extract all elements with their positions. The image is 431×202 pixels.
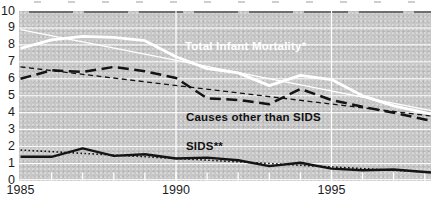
chart-screen: 109876543210 Total Infant Mortality* Cau… xyxy=(0,0,431,202)
x-axis-label-1985: 1985 xyxy=(7,183,35,197)
series-label-total-infant-mortality: Total Infant Mortality* xyxy=(185,40,306,52)
y-axis-label-9: 9 xyxy=(0,20,15,35)
y-axis-label-3: 3 xyxy=(0,122,15,137)
y-axis-label-6: 6 xyxy=(0,71,15,86)
series-label-causes-other-than-sids: Causes other than SIDS xyxy=(186,111,321,123)
plot-area: Total Infant Mortality* Causes other tha… xyxy=(19,11,431,181)
chart-svg xyxy=(19,11,431,181)
y-axis-label-10: 10 xyxy=(0,4,15,19)
y-axis-label-5: 5 xyxy=(0,88,15,103)
cropped-edge-artifact xyxy=(34,1,429,3)
y-axis-label-7: 7 xyxy=(0,54,15,69)
y-axis-label-1: 1 xyxy=(0,156,15,171)
x-axis-label-1990: 1990 xyxy=(162,183,190,197)
y-axis-label-8: 8 xyxy=(0,37,15,52)
series-label-sids: SIDS** xyxy=(186,140,223,152)
y-axis-label-4: 4 xyxy=(0,105,15,120)
y-axis-label-2: 2 xyxy=(0,139,15,154)
x-axis-label-1995: 1995 xyxy=(318,183,346,197)
